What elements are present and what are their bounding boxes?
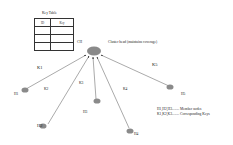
cluster-head-node bbox=[87, 47, 101, 56]
key-label-k3: K3 bbox=[79, 82, 83, 86]
key-label-k4: K4 bbox=[123, 88, 127, 92]
node-label-h1: H1 bbox=[14, 93, 18, 97]
network-diagram bbox=[0, 0, 233, 145]
node-h5 bbox=[167, 84, 174, 89]
edge-h5 bbox=[101, 55, 169, 86]
node-h1 bbox=[22, 87, 29, 92]
node-label-h2: H2 bbox=[37, 124, 43, 129]
edge-h4 bbox=[97, 57, 129, 128]
edge-h1 bbox=[26, 55, 86, 89]
cluster-head-description: Cluster head (maintains coverage) bbox=[108, 41, 157, 45]
node-label-h4: H4 bbox=[134, 133, 138, 137]
edge-h3 bbox=[93, 57, 96, 99]
key-label-k2: K2 bbox=[44, 88, 48, 92]
key-label-k5: K5 bbox=[152, 63, 158, 68]
node-h3 bbox=[94, 98, 101, 103]
key-label-k1: K1 bbox=[37, 66, 43, 71]
legend-corresponding-keys: K1,K2,K3........ Corresponding Keys bbox=[157, 113, 210, 117]
node-label-h3: H3 bbox=[83, 111, 87, 115]
node-h4 bbox=[127, 128, 134, 133]
node-label-h5: H5 bbox=[181, 93, 185, 97]
cluster-head-label: CH bbox=[77, 41, 82, 45]
